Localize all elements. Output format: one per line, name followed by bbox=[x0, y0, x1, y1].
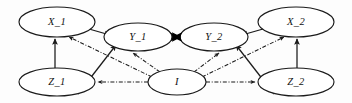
node-z1[interactable]: Z_1 bbox=[19, 68, 95, 96]
node-y2[interactable]: Y_2 bbox=[180, 23, 248, 51]
node-x2-label: X_2 bbox=[286, 16, 305, 27]
node-z1-label: Z_1 bbox=[48, 76, 66, 87]
node-x2[interactable]: X_2 bbox=[258, 7, 334, 37]
path-diagram-svg: X_1 Y_1 Y_2 X_2 Z_1 I bbox=[0, 0, 352, 103]
node-i[interactable]: I bbox=[148, 69, 206, 95]
node-x1[interactable]: X_1 bbox=[19, 7, 95, 37]
node-y2-label: Y_2 bbox=[205, 31, 223, 42]
node-z2[interactable]: Z_2 bbox=[258, 68, 334, 96]
node-x1-label: X_1 bbox=[47, 16, 66, 27]
node-i-label: I bbox=[174, 76, 179, 87]
node-y1[interactable]: Y_1 bbox=[104, 23, 172, 51]
path-diagram-canvas: X_1 Y_1 Y_2 X_2 Z_1 I bbox=[0, 0, 352, 103]
edge-i-to-y2 bbox=[194, 53, 219, 72]
node-y1-label: Y_1 bbox=[129, 31, 147, 42]
edge-i-to-y1 bbox=[133, 53, 160, 72]
node-layer: X_1 Y_1 Y_2 X_2 Z_1 I bbox=[19, 7, 334, 96]
node-z2-label: Z_2 bbox=[287, 76, 305, 87]
